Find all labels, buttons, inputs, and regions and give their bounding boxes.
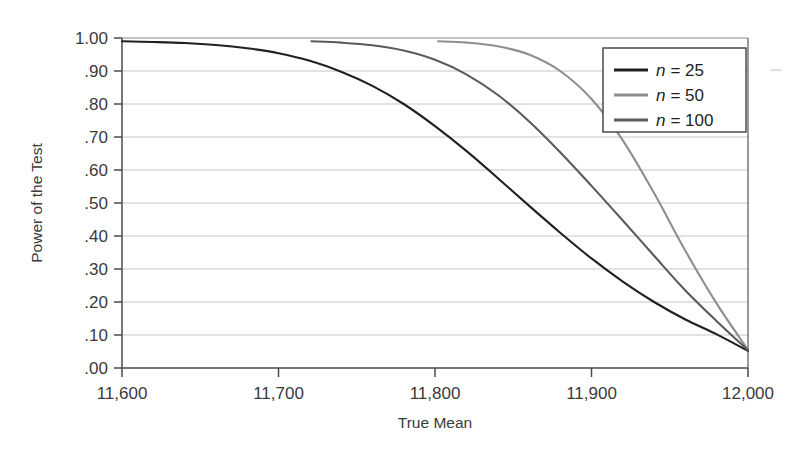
- y-tick-label: .90: [84, 62, 108, 81]
- x-tick-label: 11,900: [566, 384, 617, 403]
- legend-label: n= 25: [656, 61, 704, 80]
- x-tick-label: 11,700: [253, 384, 304, 403]
- y-tick-label: .70: [84, 128, 108, 147]
- x-tick-label: 11,800: [410, 384, 461, 403]
- y-tick-label: 1.00: [75, 29, 108, 48]
- x-tick-label: 11,600: [97, 384, 148, 403]
- y-tick-label: .40: [84, 227, 108, 246]
- x-axis-title: True Mean: [398, 414, 472, 431]
- y-tick-label: .80: [84, 95, 108, 114]
- power-curve-chart: .00.10.20.30.40.50.60.70.80.901.00 11,60…: [0, 0, 786, 458]
- legend-label: n= 100: [656, 111, 713, 130]
- y-axis-title: Power of the Test: [28, 143, 45, 263]
- power-curve-figure: .00.10.20.30.40.50.60.70.80.901.00 11,60…: [0, 0, 786, 458]
- y-tick-label: .20: [84, 293, 108, 312]
- y-tick-label: .10: [84, 326, 108, 345]
- y-tick-label: .50: [84, 194, 108, 213]
- legend-label: n= 50: [656, 86, 704, 105]
- y-tick-label: .60: [84, 161, 108, 180]
- y-tick-label: .30: [84, 260, 108, 279]
- y-tick-label: .00: [84, 359, 108, 378]
- x-tick-label: 12,000: [722, 384, 774, 403]
- chart-legend: n= 25n= 50n= 100: [603, 48, 746, 132]
